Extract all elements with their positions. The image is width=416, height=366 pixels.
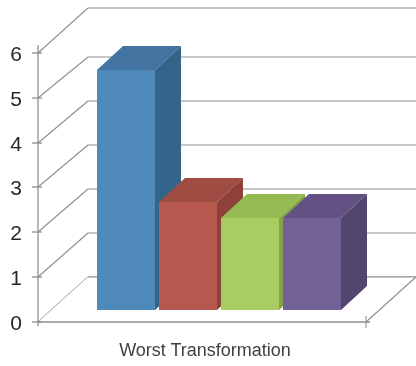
bar-1-front xyxy=(97,70,155,310)
bar-3-front xyxy=(221,218,279,310)
bar-2-front xyxy=(159,202,217,310)
y-tick-label-1: 1 xyxy=(10,266,22,289)
y-tick-label-0: 0 xyxy=(10,311,22,334)
bar-series-4[interactable] xyxy=(283,194,367,310)
y-tick-label-5: 5 xyxy=(10,87,22,110)
y-tick-label-3: 3 xyxy=(10,176,22,199)
chart-container: 6 5 4 3 2 1 0 Worst Transformation xyxy=(0,0,416,366)
y-axis-tick-labels: 6 5 4 3 2 1 0 xyxy=(10,42,22,334)
bar-4-front xyxy=(283,218,341,310)
y-tick-label-4: 4 xyxy=(10,132,22,155)
x-axis-title: Worst Transformation xyxy=(119,340,291,360)
y-tick-label-6: 6 xyxy=(10,42,22,65)
perspective-depth-lines xyxy=(38,8,88,322)
y-tick-label-2: 2 xyxy=(10,221,22,244)
bar-chart-3d: 6 5 4 3 2 1 0 Worst Transformation xyxy=(0,0,416,366)
